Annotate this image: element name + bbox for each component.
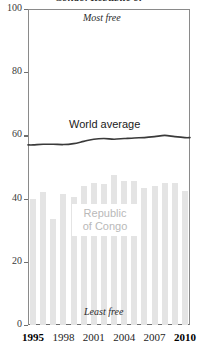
y-tick-label: 40 (12, 192, 22, 203)
y-axis-tick: 60 (0, 135, 28, 136)
world-average-path (28, 135, 190, 145)
x-tick-label: 2007 (144, 331, 166, 343)
y-axis-tick: 40 (0, 199, 28, 200)
y-tick-label: 80 (12, 65, 22, 76)
x-tick-label: 2004 (113, 331, 135, 343)
chart-container: Congo, Republic of 020406080100 19951998… (0, 0, 204, 352)
y-tick-label: 0 (17, 318, 22, 329)
annotation-republic-of-congo: Republic of Congo (72, 204, 138, 236)
line-series-world-average (28, 9, 190, 325)
y-tick-mark (24, 325, 28, 326)
x-tick-label: 2010 (174, 331, 196, 343)
country-label-line1: Republic (84, 207, 127, 219)
y-axis-tick: 20 (0, 262, 28, 263)
y-axis-tick: 0 (0, 325, 28, 326)
y-tick-label: 100 (7, 2, 22, 13)
y-tick-label: 60 (12, 128, 22, 139)
x-tick-label: 1998 (52, 331, 74, 343)
annotation-most-free: Most free (83, 12, 121, 23)
y-axis-tick: 80 (0, 72, 28, 73)
annotation-least-free: Least free (84, 306, 123, 317)
y-tick-label: 20 (12, 255, 22, 266)
annotation-world-average: World average (67, 118, 142, 130)
country-label-line2: of Congo (83, 220, 128, 232)
x-tick-label: 1995 (22, 331, 44, 343)
y-axis-tick: 100 (0, 9, 28, 10)
x-tick-label: 2001 (83, 331, 105, 343)
chart-title: Congo, Republic of (55, 0, 143, 1)
